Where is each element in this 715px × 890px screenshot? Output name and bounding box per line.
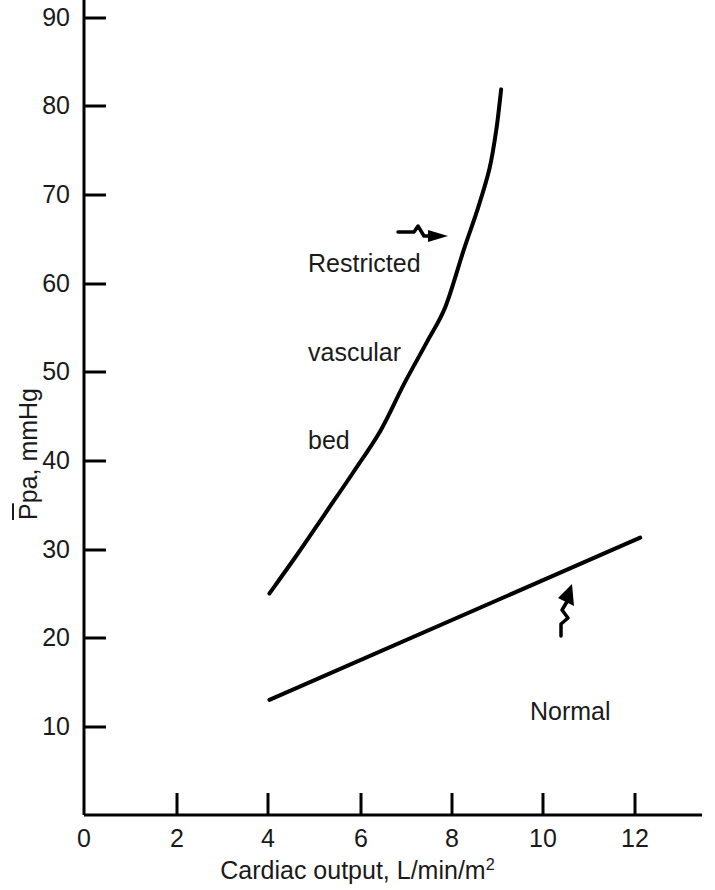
x-tick-label-0: 0: [54, 824, 114, 854]
y-axis-title-rest: pa, mmHg: [14, 388, 42, 503]
annotation-restricted-line-1: Restricted: [308, 249, 458, 279]
wavy-arrow-up-left-icon: [558, 584, 574, 636]
x-tick-label-4: 4: [238, 824, 298, 854]
annotation-restricted-vascular-bed: Restricted vascular bed: [308, 190, 458, 515]
x-axis-title: Cardiac output, L/min/m2: [0, 855, 715, 886]
x-tick-label-6: 6: [331, 824, 391, 854]
y-tick-label-70: 70: [0, 180, 70, 210]
x-tick-label-8: 8: [422, 824, 482, 854]
y-tick-label-20: 20: [0, 623, 70, 653]
x-axis-title-superscript: 2: [486, 855, 495, 873]
y-tick-label-30: 30: [0, 535, 70, 565]
annotation-normal-line-1: Normal: [530, 697, 690, 727]
annotation-restricted-line-3: bed: [308, 426, 458, 456]
x-axis-ticks: [177, 793, 635, 815]
y-tick-label-80: 80: [0, 91, 70, 121]
y-tick-label-10: 10: [0, 712, 70, 742]
y-tick-label-90: 90: [0, 3, 70, 33]
annotation-normal: Normal: [530, 638, 690, 786]
y-tick-label-60: 60: [0, 269, 70, 299]
x-tick-label-12: 12: [605, 824, 665, 854]
y-tick-label-50: 50: [0, 357, 70, 387]
y-axis-title: Ppa, mmHg: [14, 388, 44, 520]
y-axis-ticks: [84, 18, 106, 727]
chart-figure: 90 80 70 60 50 40 30 20 10 0 2 4 6 8 10 …: [0, 0, 715, 890]
x-tick-label-10: 10: [513, 824, 573, 854]
x-tick-label-2: 2: [147, 824, 207, 854]
x-axis-title-text: Cardiac output, L/min/m: [220, 856, 485, 884]
y-axis-title-overbar-char: P: [14, 503, 42, 520]
annotation-restricted-line-2: vascular: [308, 338, 458, 368]
